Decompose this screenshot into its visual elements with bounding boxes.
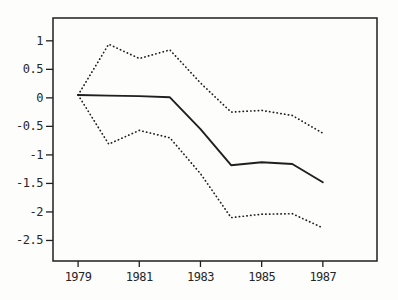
y-axis-tick-label: -1.5 — [16, 176, 43, 190]
y-axis-tick-label: -0.5 — [16, 119, 43, 133]
y-axis-tick-label: 0.5 — [23, 62, 43, 76]
y-axis-tick-label: -2 — [30, 205, 44, 219]
series-upper-band — [78, 44, 323, 133]
x-axis-tick-label: 1981 — [126, 270, 153, 284]
y-axis-tick-label: 0 — [36, 91, 43, 105]
confidence-band-line-chart: 10.50-0.5-1-1.5-2-2.51979198119831985198… — [0, 0, 398, 300]
x-axis-tick-label: 1979 — [65, 270, 92, 284]
x-axis-tick-label: 1983 — [187, 270, 214, 284]
y-axis-tick-label: 1 — [36, 34, 43, 48]
plot-frame — [53, 18, 377, 261]
y-axis-tick-label: -1 — [30, 148, 44, 162]
chart-plot-area: 10.50-0.5-1-1.5-2-2.51979198119831985198… — [0, 0, 398, 300]
series-lower-band — [78, 95, 323, 228]
y-axis-tick-label: -2.5 — [16, 233, 43, 247]
x-axis-tick-label: 1985 — [248, 270, 275, 284]
series-point-estimate — [78, 95, 323, 182]
x-axis-tick-label: 1987 — [309, 270, 336, 284]
